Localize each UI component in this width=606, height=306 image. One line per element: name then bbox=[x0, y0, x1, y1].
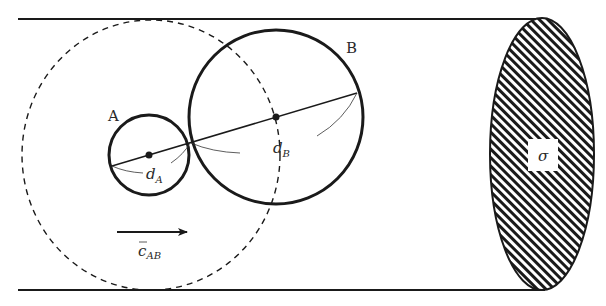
center-dot-b bbox=[273, 114, 280, 121]
velocity-label: cAB bbox=[138, 242, 161, 261]
diameter-arc-b-left bbox=[191, 143, 240, 153]
diameter-arc-a-left bbox=[112, 166, 143, 173]
diameter-a-label: dA bbox=[146, 165, 163, 185]
diameter-b-label: dB bbox=[273, 139, 290, 159]
sphere-b-label: B bbox=[346, 39, 357, 57]
sigma-label: σ bbox=[538, 147, 549, 165]
center-dot-a bbox=[146, 152, 153, 159]
collision-diagram: σ A B dA dB cAB bbox=[0, 0, 606, 306]
sphere-a-label: A bbox=[107, 107, 119, 125]
